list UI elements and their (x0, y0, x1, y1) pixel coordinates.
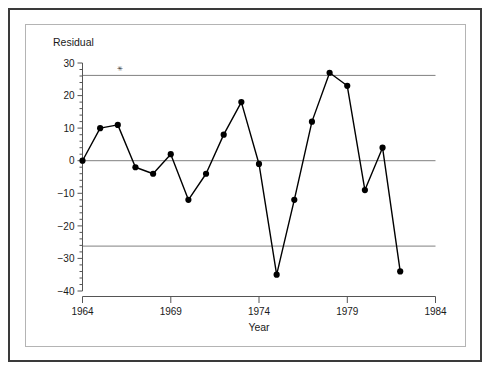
y-tick-label--20: −20 (58, 221, 75, 232)
x-axis-tick-labels-group: 19641969197419791984 (71, 306, 447, 317)
y-tick-label-0: 0 (69, 155, 75, 166)
data-point-1965 (97, 125, 103, 131)
y-tick-label--30: −30 (58, 253, 75, 264)
data-point-1971 (203, 171, 209, 177)
data-point-1968 (150, 171, 156, 177)
annotations-group: ✳ (117, 65, 123, 72)
x-axis-ticks-group (83, 297, 436, 304)
residual-chart: Residual 3020100−10−20−30−40 19641969197… (0, 0, 491, 371)
data-point-1967 (132, 164, 138, 170)
data-point-1979 (344, 83, 350, 89)
x-tick-label-1974: 1974 (248, 306, 271, 317)
x-tick-label-1984: 1984 (424, 306, 447, 317)
figure-root: Residual 3020100−10−20−30−40 19641969197… (0, 0, 491, 371)
data-point-1980 (362, 187, 368, 193)
x-tick-label-1964: 1964 (71, 306, 94, 317)
data-point-1978 (327, 70, 333, 76)
data-point-1977 (309, 119, 315, 125)
y-axis-label: Residual (53, 36, 94, 48)
chart-svg: Residual 3020100−10−20−30−40 19641969197… (0, 0, 491, 371)
data-point-1973 (238, 99, 244, 105)
y-axis-tick-labels-group: 3020100−10−20−30−40 (58, 58, 75, 297)
data-point-1966 (115, 122, 121, 128)
data-point-1972 (221, 132, 227, 138)
y-tick-label--10: −10 (58, 188, 75, 199)
x-axis-label: Year (248, 321, 270, 333)
y-tick-label-10: 10 (63, 123, 75, 134)
data-point-1970 (185, 197, 191, 203)
x-tick-label-1969: 1969 (160, 306, 183, 317)
asterisk-marker: ✳ (117, 65, 123, 72)
y-tick-label-30: 30 (63, 58, 75, 69)
y-axis-ticks-group (78, 63, 83, 291)
reference-lines-group (83, 75, 436, 246)
y-tick-label--40: −40 (58, 286, 75, 297)
data-point-1969 (168, 151, 174, 157)
data-point-1975 (274, 272, 280, 278)
data-point-1974 (256, 161, 262, 167)
x-tick-label-1979: 1979 (336, 306, 359, 317)
data-point-1982 (397, 268, 403, 274)
data-point-1981 (379, 145, 385, 151)
y-tick-label-20: 20 (63, 90, 75, 101)
data-point-1964 (79, 158, 85, 164)
data-point-1976 (291, 197, 297, 203)
